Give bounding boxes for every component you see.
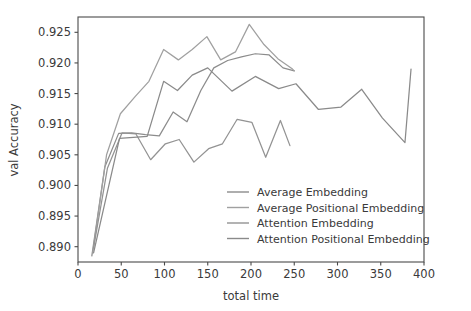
- y-tick-label: 0.925: [38, 25, 71, 39]
- x-tick-label: 100: [154, 267, 176, 281]
- y-tick-label: 0.890: [38, 240, 71, 254]
- x-tick-label: 250: [283, 267, 305, 281]
- x-axis-title: total time: [223, 289, 279, 303]
- x-tick-label: 0: [74, 267, 81, 281]
- x-tick-label: 150: [197, 267, 219, 281]
- legend-label: Attention Positional Embedding: [257, 233, 430, 246]
- y-tick-label: 0.895: [38, 209, 71, 223]
- legend-label: Average Positional Embedding: [257, 202, 424, 215]
- x-tick-label: 50: [114, 267, 129, 281]
- y-tick-label: 0.915: [38, 87, 71, 101]
- legend-label: Attention Embedding: [257, 217, 374, 230]
- x-tick-label: 400: [413, 267, 435, 281]
- line-chart: 0.8900.8950.9000.9050.9100.9150.9200.925…: [0, 0, 471, 311]
- y-tick-label: 0.920: [38, 56, 71, 70]
- y-tick-label: 0.900: [38, 178, 71, 192]
- y-tick-label: 0.910: [38, 117, 71, 131]
- x-tick-label: 300: [327, 267, 349, 281]
- y-tick-label: 0.905: [38, 148, 71, 162]
- y-axis-title: val Accuracy: [7, 103, 21, 176]
- x-tick-label: 350: [370, 267, 392, 281]
- x-tick-label: 200: [240, 267, 262, 281]
- legend-label: Average Embedding: [257, 186, 368, 199]
- chart-figure: 0.8900.8950.9000.9050.9100.9150.9200.925…: [0, 0, 471, 311]
